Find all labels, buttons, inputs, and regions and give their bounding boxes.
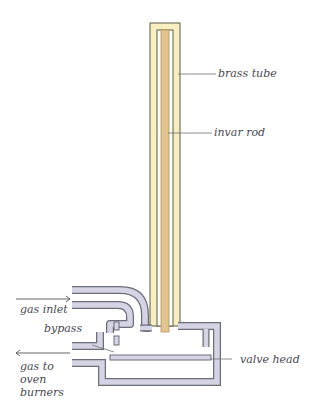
gas-inlet-arrow bbox=[16, 296, 70, 302]
thermostat-diagram bbox=[0, 0, 313, 414]
invar-rod-label: invar rod bbox=[214, 126, 265, 139]
gas-inlet-label: gas inlet bbox=[20, 303, 68, 316]
gas-outlet-arrow bbox=[16, 350, 70, 356]
invar-rod bbox=[161, 30, 169, 332]
bypass-passage bbox=[114, 322, 119, 345]
bypass-label: bypass bbox=[44, 322, 82, 335]
valve-body bbox=[72, 326, 217, 382]
valve-head bbox=[110, 355, 211, 360]
gas-to-oven-burners-label: gas to oven burners bbox=[20, 360, 70, 399]
brass-tube-label: brass tube bbox=[218, 67, 277, 80]
gas-inlet-pipe bbox=[72, 290, 150, 333]
valve-head-label: valve head bbox=[240, 353, 300, 366]
